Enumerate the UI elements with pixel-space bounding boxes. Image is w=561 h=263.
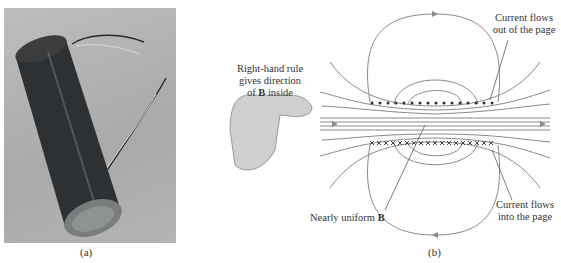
leader-bottom <box>492 150 512 200</box>
field-line-bottom-outer <box>368 145 500 235</box>
right-hand-icon <box>230 95 312 170</box>
hand-label: Right-hand rule gives direction of B ins… <box>220 63 320 99</box>
solenoid-field-diagram <box>0 0 561 263</box>
leader-uniform <box>385 125 425 210</box>
current-out-dots <box>371 102 494 105</box>
caption-b: (b) <box>428 246 441 258</box>
uniform-b-label: Nearly uniform B <box>310 212 385 224</box>
field-line-top-mid <box>394 80 478 104</box>
current-in-label: Current flows into the page <box>488 199 561 223</box>
field-line-top-outer <box>368 14 500 102</box>
current-out-label: Current flows out of the page <box>487 12 561 36</box>
